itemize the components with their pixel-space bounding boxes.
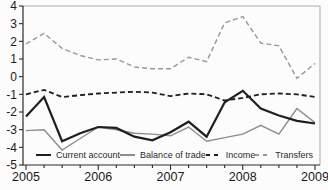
chart-container: 43210-1-2-3-4-520052006200720082009 Curr… (0, 0, 328, 190)
legend-swatch-balance-of-trade-solid-line-icon (120, 154, 135, 156)
legend-swatch-transfers-dashed-line-icon (255, 154, 270, 156)
line-chart-canvas: 43210-1-2-3-4-520052006200720082009 (0, 0, 328, 190)
x-tick-label: 2007 (157, 170, 185, 184)
x-tick-label: 2005 (12, 170, 40, 184)
legend-swatch-current-account-solid-line-icon (36, 154, 51, 157)
x-tick-label: 2009 (301, 170, 328, 184)
series-line-transfers (26, 17, 315, 79)
series-line-current-account (26, 91, 315, 141)
y-tick-label: -1 (6, 88, 17, 102)
y-tick-label: -3 (6, 123, 17, 137)
y-tick-label: 4 (10, 0, 17, 13)
y-tick-label: 1 (10, 52, 17, 66)
legend-label-transfers: Transfers (275, 150, 313, 161)
y-tick-label: 0 (10, 70, 17, 84)
chart-legend: Current accountBalance of tradeIncomeTra… (36, 150, 313, 161)
y-tick-label: -4 (6, 141, 17, 155)
legend-swatch-income-dashed-line-icon (206, 154, 221, 157)
legend-label-current-account: Current account (56, 150, 120, 161)
y-tick-label: 2 (10, 35, 17, 49)
y-tick-label: 3 (10, 17, 17, 31)
x-tick-label: 2006 (84, 170, 112, 184)
legend-item-current-account: Current account (36, 150, 120, 161)
legend-item-balance-of-trade: Balance of trade (120, 150, 206, 161)
legend-item-income: Income (206, 150, 256, 161)
series-line-balance-of-trade (26, 109, 315, 151)
legend-label-income: Income (226, 150, 256, 161)
series-line-income (26, 90, 315, 101)
legend-item-transfers: Transfers (255, 150, 313, 161)
y-tick-label: -2 (6, 105, 17, 119)
x-tick-label: 2008 (229, 170, 257, 184)
legend-label-balance-of-trade: Balance of trade (140, 150, 206, 161)
